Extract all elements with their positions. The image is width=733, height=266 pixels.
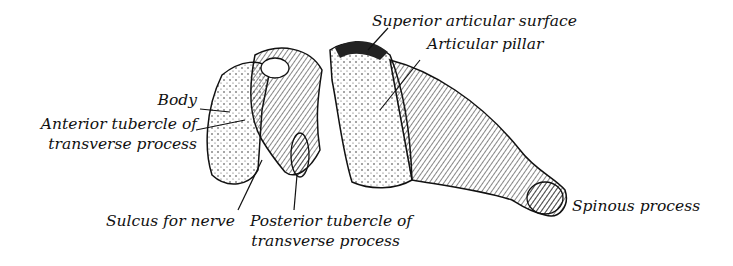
label-superior-articular-surface: Superior articular surface <box>372 12 577 30</box>
label-anterior-tubercle-line1: Anterior tubercle of <box>10 115 197 133</box>
label-spinous-process: Spinous process <box>572 197 700 215</box>
label-articular-pillar: Articular pillar <box>427 35 543 53</box>
label-posterior-tubercle-line1: Posterior tubercle of <box>250 212 400 230</box>
label-body: Body <box>140 91 197 109</box>
label-anterior-tubercle-line2: transverse process <box>10 135 197 153</box>
label-sulcus-for-nerve: Sulcus for nerve <box>106 212 235 230</box>
label-posterior-tubercle-line2: transverse process <box>250 232 400 250</box>
leader-posterior-tubercle <box>294 175 297 210</box>
